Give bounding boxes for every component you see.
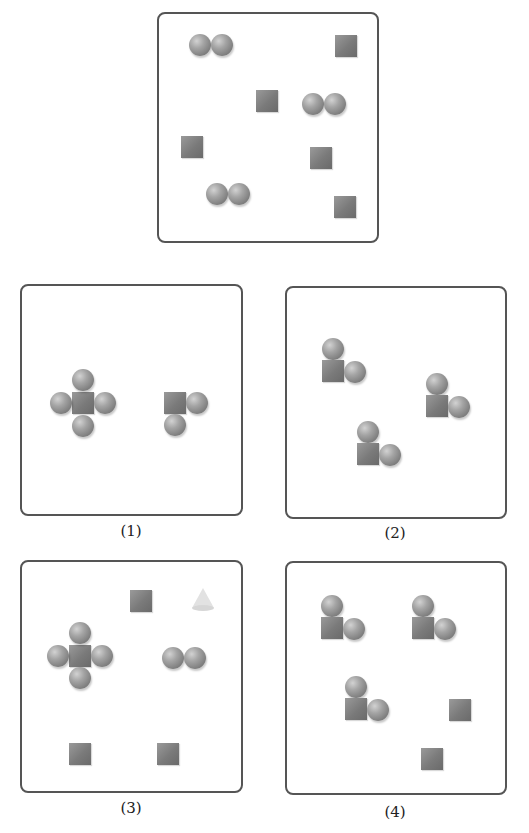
sphere-icon	[47, 645, 69, 667]
square-icon	[157, 743, 179, 765]
option-label-3: (3)	[101, 799, 161, 817]
sphere-icon	[345, 676, 367, 698]
square-icon	[345, 698, 367, 720]
square-icon	[421, 748, 443, 770]
sphere-icon	[211, 34, 233, 56]
option-label-2: (2)	[365, 524, 425, 542]
sphere-icon	[324, 93, 346, 115]
square-icon	[322, 360, 344, 382]
square-icon	[69, 743, 91, 765]
sphere-icon	[206, 183, 228, 205]
square-icon	[72, 392, 94, 414]
sphere-icon	[343, 618, 365, 640]
sphere-icon	[426, 373, 448, 395]
square-icon	[130, 590, 152, 612]
sphere-icon	[91, 645, 113, 667]
sphere-icon	[228, 183, 250, 205]
cone-base	[192, 605, 214, 611]
option-label-1: (1)	[101, 522, 161, 540]
sphere-icon	[164, 414, 186, 436]
sphere-icon	[186, 392, 208, 414]
sphere-icon	[367, 699, 389, 721]
square-icon	[357, 443, 379, 465]
square-icon	[164, 392, 186, 414]
sphere-icon	[69, 667, 91, 689]
sphere-icon	[72, 415, 94, 437]
square-icon	[69, 645, 91, 667]
option-panel-4	[285, 561, 507, 795]
square-icon	[181, 136, 203, 158]
sphere-icon	[162, 647, 184, 669]
sphere-icon	[321, 595, 343, 617]
sphere-icon	[412, 595, 434, 617]
sphere-icon	[69, 622, 91, 644]
sphere-icon	[189, 34, 211, 56]
sphere-icon	[94, 392, 116, 414]
square-icon	[426, 395, 448, 417]
square-icon	[256, 90, 278, 112]
sphere-icon	[302, 93, 324, 115]
square-icon	[334, 196, 356, 218]
sphere-icon	[322, 338, 344, 360]
square-icon	[321, 617, 343, 639]
square-icon	[412, 617, 434, 639]
sphere-icon	[50, 392, 72, 414]
square-icon	[335, 35, 357, 57]
sphere-icon	[344, 361, 366, 383]
sphere-icon	[184, 647, 206, 669]
square-icon	[310, 147, 332, 169]
sphere-icon	[434, 618, 456, 640]
sphere-icon	[448, 396, 470, 418]
option-panel-2	[285, 286, 507, 519]
sphere-icon	[379, 444, 401, 466]
square-icon	[449, 699, 471, 721]
sphere-icon	[72, 369, 94, 391]
option-label-4: (4)	[365, 803, 425, 821]
sphere-icon	[357, 421, 379, 443]
